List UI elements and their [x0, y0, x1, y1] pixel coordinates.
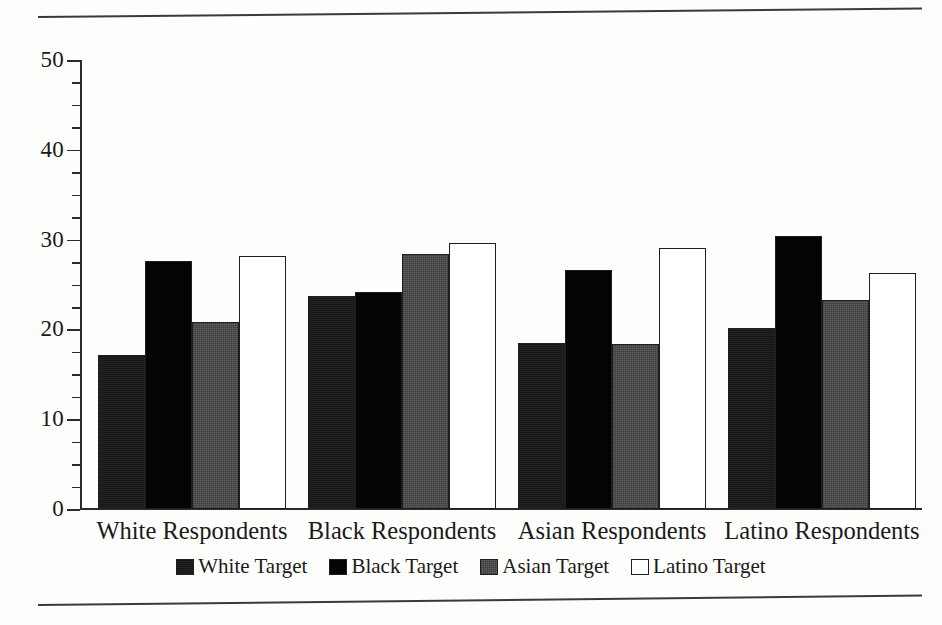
y-tick-major [67, 419, 80, 421]
y-tick-minor [72, 352, 80, 354]
bar-group [308, 60, 496, 509]
y-tick-minor [72, 217, 80, 219]
bar [728, 328, 775, 509]
bar [308, 296, 355, 509]
legend-swatch-icon [480, 559, 498, 575]
legend-item-asian: Asian Target [480, 556, 609, 577]
bar [612, 344, 659, 509]
y-tick-minor [72, 285, 80, 287]
legend-label: Black Target [351, 556, 458, 577]
category-label-black: Black Respondents [308, 514, 497, 548]
y-tick-major [67, 509, 80, 511]
y-tick-label: 0 [52, 497, 64, 520]
bar-group [728, 60, 916, 509]
bar [518, 343, 565, 509]
y-tick-minor [72, 195, 80, 197]
bar-group [518, 60, 706, 509]
y-tick-major [67, 329, 80, 331]
y-tick-minor [72, 374, 80, 376]
bar [565, 270, 612, 509]
y-tick-major [67, 240, 80, 242]
page-rule-top [38, 8, 922, 18]
y-tick-label: 40 [41, 138, 64, 161]
category-label-latino: Latino Respondents [724, 514, 919, 548]
bar [869, 273, 916, 509]
legend-swatch-icon [631, 559, 649, 575]
x-axis-category-labels: White RespondentsBlack RespondentsAsian … [80, 514, 922, 550]
y-tick-label: 20 [41, 317, 64, 340]
bar [659, 248, 706, 509]
legend-swatch-icon [329, 559, 347, 575]
y-tick-minor [72, 262, 80, 264]
bar [449, 243, 496, 509]
legend-swatch-icon [176, 559, 194, 575]
legend-item-black: Black Target [329, 556, 458, 577]
bar-chart-figure: 01020304050 White RespondentsBlack Respo… [0, 22, 942, 600]
bar-group [98, 60, 286, 509]
legend-item-white: White Target [176, 556, 307, 577]
y-tick-minor [72, 464, 80, 466]
bar [775, 236, 822, 509]
y-tick-major [67, 150, 80, 152]
y-tick-minor [72, 82, 80, 84]
y-tick-major [67, 60, 80, 62]
y-tick-minor [72, 307, 80, 309]
bar [98, 355, 145, 509]
legend-label: Asian Target [502, 556, 609, 577]
y-tick-minor [72, 172, 80, 174]
y-tick-minor [72, 127, 80, 129]
bar [822, 300, 869, 509]
chart-legend: White TargetBlack TargetAsian TargetLati… [0, 556, 942, 577]
y-tick-minor [72, 442, 80, 444]
bar [355, 292, 402, 509]
category-label-white: White Respondents [96, 514, 287, 548]
legend-item-latino: Latino Target [631, 556, 766, 577]
bar [402, 254, 449, 509]
y-tick-label: 10 [41, 407, 64, 430]
bar [192, 322, 239, 509]
y-tick-label: 50 [41, 48, 64, 71]
bar [239, 256, 286, 509]
legend-label: Latino Target [653, 556, 766, 577]
y-tick-minor [72, 105, 80, 107]
y-tick-minor [72, 487, 80, 489]
y-tick-label: 30 [41, 228, 64, 251]
y-tick-minor [72, 397, 80, 399]
bar-groups [82, 60, 936, 509]
bar [145, 261, 192, 509]
legend-label: White Target [198, 556, 307, 577]
category-label-asian: Asian Respondents [518, 514, 707, 548]
